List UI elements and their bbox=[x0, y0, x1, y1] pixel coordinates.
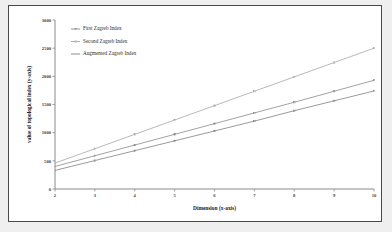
series-marker bbox=[254, 112, 255, 113]
series-marker bbox=[373, 47, 374, 48]
x-tick-label: 2 bbox=[54, 193, 57, 198]
x-tick-label: 6 bbox=[213, 193, 216, 198]
y-tick-label: 1000 bbox=[42, 130, 52, 135]
x-tick-label: 10 bbox=[372, 193, 377, 198]
series-marker bbox=[294, 102, 295, 103]
series-marker bbox=[333, 62, 334, 63]
x-tick-label: 7 bbox=[253, 193, 256, 198]
y-axis-title: value of topological index (y-axis) bbox=[26, 66, 33, 143]
series-marker bbox=[134, 134, 135, 135]
series-marker bbox=[94, 160, 95, 161]
legend-marker-0 bbox=[75, 28, 76, 29]
legend-label-2: Augmented Zagreb Index bbox=[83, 50, 137, 56]
y-tick-label: 1500 bbox=[42, 102, 52, 107]
series-marker bbox=[294, 110, 295, 111]
x-tick-label: 3 bbox=[94, 193, 97, 198]
series-marker bbox=[254, 120, 255, 121]
series-marker bbox=[174, 140, 175, 141]
legend-marker-1 bbox=[75, 41, 76, 42]
series-marker bbox=[333, 100, 334, 101]
x-tick-label: 8 bbox=[293, 193, 296, 198]
figure-frame: 0500100015002000250030002345678910Dimens… bbox=[8, 5, 382, 222]
y-tick-label: 500 bbox=[44, 159, 52, 164]
series-marker bbox=[134, 144, 135, 145]
y-tick-label: 0 bbox=[49, 187, 52, 192]
y-tick-label: 2500 bbox=[42, 46, 52, 51]
series-marker bbox=[294, 76, 295, 77]
series-marker bbox=[254, 91, 255, 92]
series-marker bbox=[373, 90, 374, 91]
x-tick-label: 9 bbox=[333, 193, 336, 198]
x-tick-label: 4 bbox=[134, 193, 137, 198]
series-marker bbox=[214, 105, 215, 106]
x-tick-label: 5 bbox=[173, 193, 176, 198]
series-marker bbox=[134, 150, 135, 151]
chart-plot-area: 0500100015002000250030002345678910Dimens… bbox=[9, 6, 381, 221]
series-marker bbox=[373, 80, 374, 81]
line-chart: 0500100015002000250030002345678910Dimens… bbox=[9, 6, 383, 223]
legend-label-0: First Zagreb Index bbox=[83, 25, 122, 31]
series-marker bbox=[94, 148, 95, 149]
series-marker bbox=[174, 134, 175, 135]
y-tick-label: 3000 bbox=[42, 18, 52, 23]
series-marker bbox=[214, 123, 215, 124]
legend-label-1: Second Zagreb Index bbox=[83, 38, 128, 44]
y-tick-label: 2000 bbox=[42, 74, 52, 79]
series-marker bbox=[94, 155, 95, 156]
series-marker bbox=[174, 119, 175, 120]
x-axis-title: Dimension (x-axis) bbox=[193, 205, 236, 212]
series-marker bbox=[333, 91, 334, 92]
series-marker bbox=[214, 130, 215, 131]
